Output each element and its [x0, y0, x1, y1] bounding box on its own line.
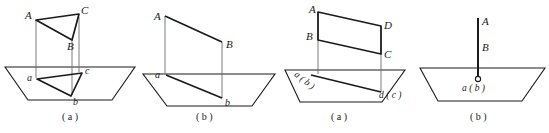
projection-point-marker-fig4 — [475, 76, 480, 81]
label-a-b-fig4: a ( b ) — [462, 84, 485, 94]
caption-fig4: ( b ) — [470, 112, 487, 122]
figure-4-vertical-segment — [0, 0, 549, 133]
label-A-fig4: A — [482, 16, 489, 27]
figure-board: A C B a c b ( a ) A B a b ( b ) — [0, 0, 549, 133]
label-B-fig4: B — [482, 42, 489, 53]
